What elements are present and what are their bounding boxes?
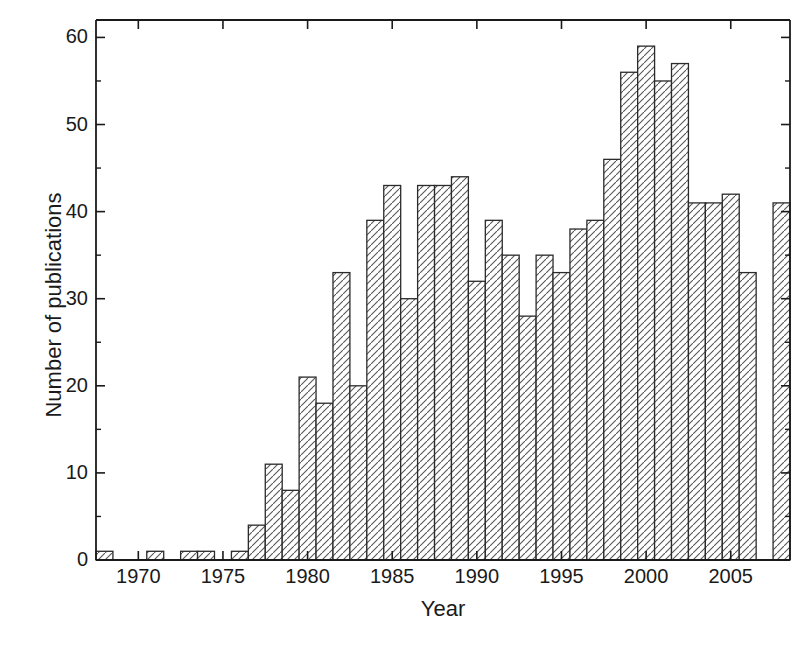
bar bbox=[299, 377, 316, 560]
x-tick-label: 2005 bbox=[696, 566, 766, 586]
bar bbox=[451, 177, 468, 560]
y-tick-label: 10 bbox=[48, 462, 88, 482]
publications-per-year-bar-chart: Number of publications Year 010203040506… bbox=[0, 0, 809, 649]
bar bbox=[705, 203, 722, 560]
bar bbox=[502, 255, 519, 560]
bar bbox=[147, 551, 164, 560]
bar bbox=[384, 185, 401, 560]
bar bbox=[621, 72, 638, 560]
bar bbox=[316, 403, 333, 560]
bar bbox=[418, 185, 435, 560]
bar bbox=[282, 490, 299, 560]
x-tick-label: 1970 bbox=[103, 566, 173, 586]
bar bbox=[198, 551, 215, 560]
x-tick-label: 2000 bbox=[611, 566, 681, 586]
bar bbox=[435, 185, 452, 560]
bar bbox=[401, 299, 418, 560]
x-tick-label: 1980 bbox=[273, 566, 343, 586]
bar bbox=[604, 159, 621, 560]
bar bbox=[468, 281, 485, 560]
y-tick-label: 20 bbox=[48, 375, 88, 395]
bar bbox=[672, 64, 689, 560]
y-tick-label: 0 bbox=[48, 549, 88, 569]
bar bbox=[248, 525, 265, 560]
bar bbox=[773, 203, 790, 560]
bar bbox=[485, 220, 502, 560]
bar bbox=[350, 386, 367, 560]
y-axis-tick-labels: 0102030405060 bbox=[36, 0, 88, 649]
bar bbox=[638, 46, 655, 560]
bar bbox=[181, 551, 198, 560]
x-axis-label: Year bbox=[96, 596, 790, 622]
bar bbox=[96, 551, 113, 560]
bar bbox=[688, 203, 705, 560]
x-tick-label: 1995 bbox=[526, 566, 596, 586]
bar bbox=[536, 255, 553, 560]
x-tick-label: 1975 bbox=[188, 566, 258, 586]
bar bbox=[367, 220, 384, 560]
bar bbox=[722, 194, 739, 560]
y-tick-label: 60 bbox=[48, 26, 88, 46]
x-tick-label: 1985 bbox=[357, 566, 427, 586]
bar bbox=[553, 273, 570, 560]
bar bbox=[739, 273, 756, 560]
bar bbox=[655, 81, 672, 560]
y-tick-label: 50 bbox=[48, 114, 88, 134]
y-tick-label: 40 bbox=[48, 201, 88, 221]
plot-area bbox=[0, 0, 809, 649]
bar-series bbox=[96, 46, 790, 560]
bar bbox=[231, 551, 248, 560]
x-tick-label: 1990 bbox=[442, 566, 512, 586]
bar bbox=[570, 229, 587, 560]
bar bbox=[587, 220, 604, 560]
bar bbox=[519, 316, 536, 560]
bar bbox=[333, 273, 350, 560]
bar bbox=[265, 464, 282, 560]
y-tick-label: 30 bbox=[48, 288, 88, 308]
